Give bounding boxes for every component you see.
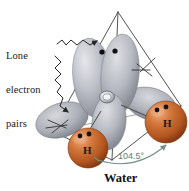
hydrogen-right-label: H [163,117,172,129]
water-molecule-figure: Lone electron pairs H H 104.5° Water [0,0,189,191]
lobe-pointer-right [132,58,155,76]
bond-angle-label: 104.5° [118,152,144,162]
lone-pair-pointer-upper [57,40,97,45]
lone-pairs-line-1: Lone [6,50,41,61]
hydrogen-left-label: H [83,144,92,156]
lone-pairs-line-3: pairs [6,118,41,129]
lone-electron-pairs-label: Lone electron pairs [6,27,41,152]
bond-angle-arc-stub [94,157,99,161]
lone-pair-pointer-lower [55,56,68,112]
figure-caption: Water [104,172,137,186]
lobe-pointer-left [46,120,68,133]
lone-pairs-line-2: electron [6,84,41,95]
